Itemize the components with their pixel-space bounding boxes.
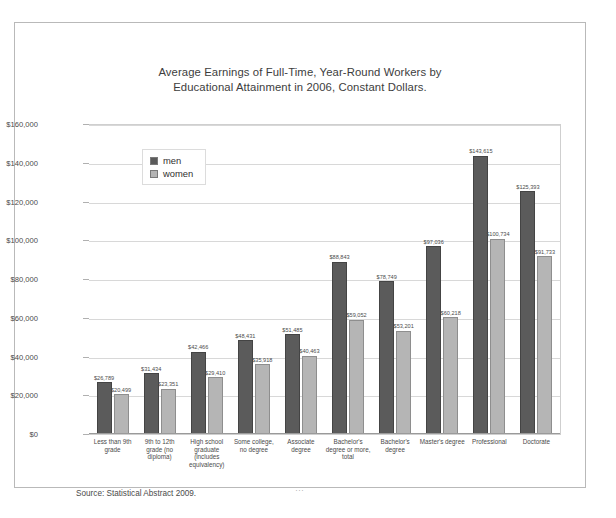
bar-value-label: $97,036 [424, 239, 444, 245]
bar-men[interactable]: $143,615 [473, 125, 488, 434]
bar-value-label: $23,351 [158, 381, 178, 387]
footer-mark: ... [15, 485, 585, 492]
x-axis-line [89, 433, 560, 434]
x-axis-category-label: 9th to 12th grade (no diploma) [136, 438, 183, 461]
y-axis-tick-label: $140,000 [0, 158, 38, 167]
bar-value-label: $42,466 [188, 344, 208, 350]
bar-men[interactable]: $26,789 [97, 125, 112, 434]
x-axis-category-label: High school graduate (includes equivalen… [183, 438, 230, 468]
bar-rect-women[interactable] [208, 377, 223, 434]
bar-rect-women[interactable] [396, 331, 411, 434]
bar-men[interactable]: $125,393 [520, 125, 535, 434]
bar-rect-men[interactable] [332, 262, 347, 434]
bar-value-label: $53,201 [394, 323, 414, 329]
x-axis-category-label: Bachelor's degree or more, total [325, 438, 372, 461]
bar-women[interactable]: $35,918 [255, 125, 270, 434]
bar-value-label: $59,052 [346, 312, 366, 318]
bar-rect-women[interactable] [349, 320, 364, 434]
bar-value-label: $26,789 [94, 375, 114, 381]
x-axis-category-label: Bachelor's degree [372, 438, 419, 453]
bar-rect-men[interactable] [144, 373, 159, 434]
y-axis-tick-label: $40,000 [0, 352, 38, 361]
bar-women[interactable]: $91,733 [537, 125, 552, 434]
bar-value-label: $91,733 [535, 249, 555, 255]
bar-men[interactable]: $78,749 [379, 125, 394, 434]
x-axis-category-label: Some college, no degree [230, 438, 277, 453]
y-axis-tick-label: $160,000 [0, 120, 38, 129]
bar-women[interactable]: $20,499 [114, 125, 129, 434]
bar-value-label: $35,918 [252, 357, 272, 363]
bar-value-label: $51,485 [282, 327, 302, 333]
bar-rect-men[interactable] [238, 340, 253, 434]
bar-rect-men[interactable] [97, 382, 112, 434]
x-axis-category-label: Associate degree [277, 438, 324, 453]
x-axis-category-label: Professional [466, 438, 513, 446]
bar-value-label: $143,615 [469, 148, 492, 154]
bar-value-label: $100,734 [486, 231, 509, 237]
bar-women[interactable]: $29,410 [208, 125, 223, 434]
bar-group: $48,431$35,918 [230, 125, 277, 434]
bar-value-label: $31,434 [141, 366, 161, 372]
bar-women[interactable]: $40,463 [302, 125, 317, 434]
bar-rect-men[interactable] [473, 156, 488, 434]
bar-rect-men[interactable] [285, 334, 300, 434]
bar-rect-women[interactable] [114, 394, 129, 434]
bar-rect-women[interactable] [490, 239, 505, 434]
bar-value-label: $40,463 [299, 348, 319, 354]
bar-rect-men[interactable] [520, 191, 535, 434]
x-axis-category-label: Doctorate [513, 438, 560, 446]
legend-item-men: men [150, 154, 193, 167]
legend-swatch-women [150, 170, 158, 178]
bar-women[interactable]: $53,201 [396, 125, 411, 434]
bar-value-label: $78,749 [377, 274, 397, 280]
bar-group: $26,789$20,499 [89, 125, 136, 434]
bar-men[interactable]: $97,036 [426, 125, 441, 434]
bar-men[interactable]: $51,485 [285, 125, 300, 434]
y-axis-tick-label: $60,000 [0, 313, 38, 322]
chart-title-line-1: Average Earnings of Full-Time, Year-Roun… [15, 65, 585, 80]
x-axis-category-label: Less than 9th grade [89, 438, 136, 453]
bar-women[interactable]: $60,218 [443, 125, 458, 434]
y-axis-tick-label: $100,000 [0, 236, 38, 245]
legend-label-men: men [163, 154, 181, 167]
bar-value-label: $125,393 [516, 184, 539, 190]
bar-rect-men[interactable] [426, 246, 441, 434]
bar-women[interactable]: $100,734 [490, 125, 505, 434]
bar-rect-women[interactable] [161, 389, 176, 434]
scanned-page-frame: Average Earnings of Full-Time, Year-Roun… [14, 22, 586, 488]
bar-group: $97,036$60,218 [419, 125, 466, 434]
bar-group: $88,843$59,052 [325, 125, 372, 434]
bar-group: $51,485$40,463 [277, 125, 324, 434]
bar-value-label: $88,843 [329, 254, 349, 260]
y-axis-tick-label: $80,000 [0, 275, 38, 284]
bar-rect-women[interactable] [255, 364, 270, 434]
chart-title: Average Earnings of Full-Time, Year-Roun… [15, 65, 585, 94]
bar-rect-men[interactable] [379, 281, 394, 434]
bar-value-label: $29,410 [205, 370, 225, 376]
legend-item-women: women [150, 167, 193, 180]
bar-value-label: $48,431 [235, 333, 255, 339]
legend-swatch-men [150, 157, 158, 165]
bar-rect-women[interactable] [537, 256, 552, 434]
chart-title-line-2: Educational Attainment in 2006, Constant… [15, 80, 585, 95]
bar-rect-women[interactable] [302, 356, 317, 434]
bar-value-label: $20,499 [111, 387, 131, 393]
y-axis-tick-label: $20,000 [0, 391, 38, 400]
bar-value-label: $60,218 [441, 310, 461, 316]
bar-rect-men[interactable] [191, 352, 206, 434]
bar-group: $143,615$100,734 [466, 125, 513, 434]
y-axis-tick-label: $0 [0, 430, 38, 439]
bar-group: $78,749$53,201 [372, 125, 419, 434]
x-axis-category-label: Master's degree [419, 438, 466, 446]
bar-men[interactable]: $48,431 [238, 125, 253, 434]
legend-label-women: women [163, 167, 193, 180]
bar-rect-women[interactable] [443, 317, 458, 434]
y-axis-tick-label: $120,000 [0, 197, 38, 206]
chart-legend: men women [142, 149, 206, 185]
bar-group: $125,393$91,733 [513, 125, 560, 434]
bar-women[interactable]: $59,052 [349, 125, 364, 434]
bar-men[interactable]: $88,843 [332, 125, 347, 434]
